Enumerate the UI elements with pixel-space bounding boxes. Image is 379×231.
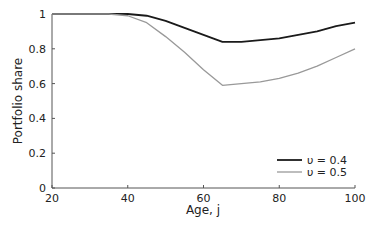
series-line: [52, 14, 355, 85]
y-tick-label: 0.4: [29, 112, 47, 125]
x-tick-label: 100: [345, 192, 366, 205]
y-tick-label: 0.6: [29, 78, 47, 91]
y-tick-label: 1: [39, 8, 46, 21]
x-tick-label: 40: [121, 192, 135, 205]
portfolio-share-chart: 00.20.40.60.8120406080100 υ = 0.4υ = 0.5…: [0, 0, 379, 231]
legend: υ = 0.4υ = 0.5: [277, 154, 347, 179]
x-tick-label: 80: [272, 192, 286, 205]
series-line: [52, 14, 355, 42]
y-tick-label: 0.2: [29, 147, 47, 160]
x-axis-label: Age, j: [186, 203, 220, 217]
legend-label: υ = 0.5: [307, 166, 347, 179]
data-lines: [52, 14, 355, 85]
y-tick-label: 0.8: [29, 43, 47, 56]
y-axis-label: Portfolio share: [11, 58, 25, 144]
x-tick-label: 20: [45, 192, 59, 205]
